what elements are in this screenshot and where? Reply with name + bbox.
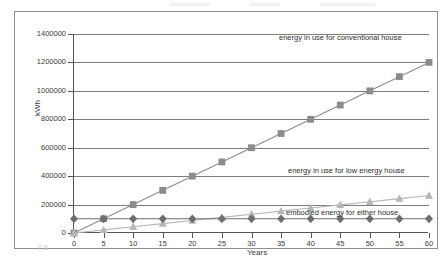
data-point-marker (396, 73, 403, 80)
data-point-marker (278, 130, 285, 137)
x-tick (281, 233, 282, 238)
scan-artifact (170, 3, 210, 6)
x-tick (163, 233, 164, 238)
x-tick (399, 233, 400, 238)
x-tick (192, 233, 193, 238)
data-point-marker (130, 201, 137, 208)
data-point-marker (219, 159, 226, 166)
data-point-marker (70, 214, 78, 223)
scan-artifact (320, 3, 375, 6)
y-tick-label: 1400000 (37, 30, 66, 38)
y-tick-label: 600000 (41, 144, 66, 152)
x-tick-label: 35 (277, 240, 285, 248)
series-annotation-label: embodied energy for either house (286, 209, 398, 217)
y-tick-label: 400000 (41, 172, 66, 180)
x-tick-label: 55 (395, 240, 403, 248)
series-annotation-label: energy in use for low energy house (288, 167, 405, 175)
chart-frame: kWh 020000040000060000080000010000001200… (14, 11, 438, 249)
plot-area: 0200000400000600000800000100000012000001… (73, 34, 428, 233)
x-tick (370, 233, 371, 238)
x-tick-label: 40 (306, 240, 314, 248)
x-tick-label: 0 (72, 240, 76, 248)
data-point-marker (218, 214, 226, 223)
y-tick-label: 200000 (41, 201, 66, 209)
x-tick-label: 15 (159, 240, 167, 248)
scan-artifact (250, 3, 280, 6)
data-point-marker (248, 144, 255, 151)
data-point-marker (307, 116, 314, 123)
x-tick (133, 233, 134, 238)
figure-container: kWh 020000040000060000080000010000001200… (0, 0, 448, 264)
x-tick-label: 60 (425, 240, 433, 248)
figure-number: 7.6 (37, 243, 48, 252)
x-tick (311, 233, 312, 238)
data-point-marker (129, 214, 137, 223)
x-tick-label: 20 (188, 240, 196, 248)
data-point-marker (159, 187, 166, 194)
y-tick-label: 1000000 (37, 87, 66, 95)
x-tick-label: 50 (366, 240, 374, 248)
data-point-marker (425, 191, 433, 198)
y-tick-label: 0 (62, 229, 66, 237)
x-tick (340, 233, 341, 238)
data-point-marker (189, 173, 196, 180)
x-tick (252, 233, 253, 238)
x-tick-label: 5 (101, 240, 105, 248)
data-series-layer (74, 34, 429, 233)
series-annotation-label: energy in use for conventional house (279, 34, 402, 42)
x-tick-label: 25 (218, 240, 226, 248)
x-tick (429, 233, 430, 238)
data-point-marker (159, 214, 167, 223)
x-tick-label: 45 (336, 240, 344, 248)
x-axis-title: Years (247, 248, 267, 257)
y-tick-label: 800000 (41, 116, 66, 124)
x-tick (222, 233, 223, 238)
data-point-marker (426, 59, 433, 66)
x-tick-label: 10 (129, 240, 137, 248)
data-point-marker (366, 87, 373, 94)
y-tick-label: 1200000 (37, 59, 66, 67)
x-tick (104, 233, 105, 238)
data-point-marker (337, 102, 344, 109)
x-tick-label: 30 (247, 240, 255, 248)
data-point-marker (277, 214, 285, 223)
data-point-marker (425, 214, 433, 223)
